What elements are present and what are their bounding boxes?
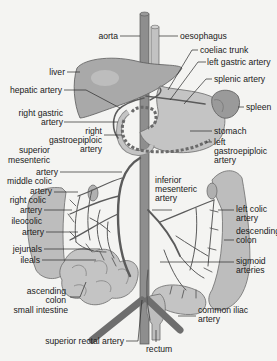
label-stomach: stomach: [214, 126, 247, 136]
label-rectum: rectum: [146, 344, 172, 354]
label-liver: liver: [49, 67, 65, 77]
label-sigmoid-2: arteries: [236, 265, 265, 275]
label-jejunals: jejunals: [12, 244, 42, 254]
label-right-gastric-artery-2: artery: [41, 117, 64, 127]
label-left-colic-2: artery: [236, 213, 259, 223]
label-ascending-colon-2: colon: [45, 295, 66, 305]
aorta-shape: [140, 12, 149, 344]
label-ileocolic-1: ileocolic: [11, 216, 42, 226]
label-small-intestine: small intestine: [14, 305, 69, 315]
label-right-gastroepiploic-3: artery: [80, 144, 103, 154]
label-left-gastric-artery: left gastric artery: [207, 57, 271, 67]
label-hepatic-artery: hepatic artery: [10, 85, 63, 95]
label-left-gastroepiploic-3: artery: [214, 155, 237, 165]
label-middle-colic-1: middle colic: [7, 176, 53, 186]
label-descending-colon-2: colon: [236, 235, 257, 245]
label-splenic-artery: splenic artery: [214, 74, 266, 84]
label-right-colic-1: right colic: [10, 195, 47, 205]
label-ileocolic-2: artery: [22, 227, 45, 237]
label-common-iliac-2: artery: [198, 314, 221, 324]
label-ileals: ileals: [20, 255, 40, 265]
label-superior-mesenteric-2: mesenteric: [8, 155, 51, 165]
label-superior-rectal-artery: superior rectal artery: [45, 336, 125, 346]
label-inferior-mesenteric-3: artery: [155, 193, 178, 203]
label-spleen: spleen: [246, 102, 272, 112]
label-right-colic-2: artery: [20, 205, 43, 215]
label-superior-mesenteric-1: superior: [19, 145, 50, 155]
label-oesophagus: oesophagus: [180, 31, 227, 41]
label-coeliac-trunk: coeliac trunk: [200, 45, 249, 55]
label-aorta: aorta: [98, 31, 118, 41]
stomach-shape: [140, 86, 225, 153]
digestive-blood-supply-diagram: aorta oesophagus coeliac trunk left gast…: [0, 0, 277, 361]
